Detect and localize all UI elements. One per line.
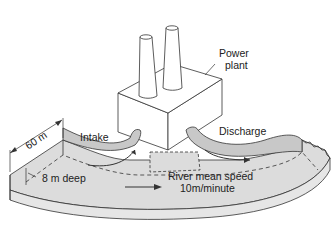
- label-speed-line2: 10m/minute: [180, 182, 235, 194]
- label-discharge: Discharge: [219, 125, 266, 137]
- power-plant-leader: [205, 64, 215, 75]
- label-depth: 8 m deep: [42, 172, 86, 184]
- smokestack-right: [163, 28, 182, 90]
- label-intake: Intake: [80, 131, 109, 143]
- label-width: 60 m: [23, 128, 49, 151]
- label-speed-line1: River mean speed: [168, 170, 253, 182]
- intake-basin: [150, 152, 200, 172]
- smokestack-left: [139, 37, 157, 98]
- label-power-line1: Power: [219, 47, 249, 59]
- label-power-line2: plant: [225, 59, 248, 71]
- power-plant-river-diagram: Power plant Intake Discharge 60 m 8 m de…: [0, 0, 336, 225]
